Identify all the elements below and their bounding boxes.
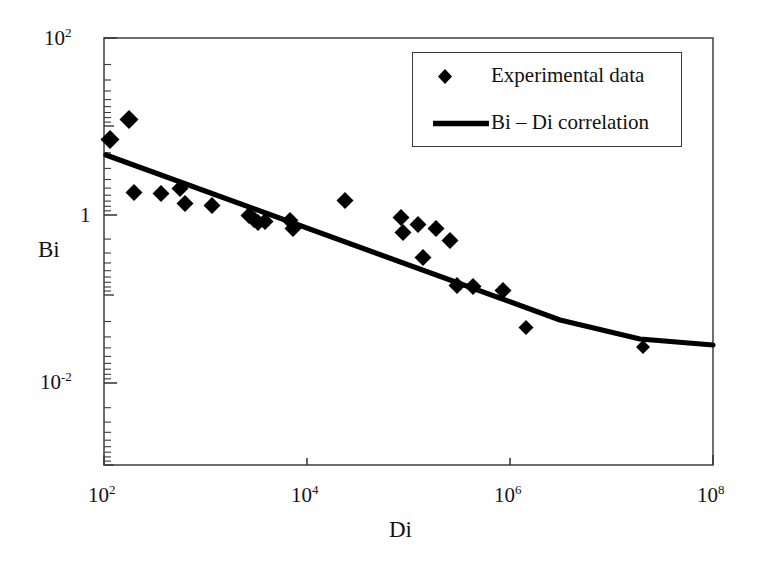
chart-legend: Experimental data Bi – Di correlation bbox=[412, 52, 682, 147]
diamond-marker-icon bbox=[431, 53, 491, 100]
x-tick-label-1e4: 104 bbox=[291, 485, 319, 506]
x-tick-label-1e6: 106 bbox=[494, 485, 522, 506]
legend-label-experimental-data: Experimental data bbox=[491, 65, 644, 86]
legend-label-correlation: Bi – Di correlation bbox=[491, 112, 649, 133]
y-tick-label-1e-2: 10-2 bbox=[40, 372, 72, 393]
x-tick-label-1e8: 108 bbox=[697, 485, 725, 506]
chart-figure: 102 1 10-2 Bi 102 104 106 108 Di Experim… bbox=[0, 0, 770, 561]
legend-entry-correlation: Bi – Di correlation bbox=[413, 100, 681, 147]
x-axis-title: Di bbox=[389, 518, 412, 541]
line-marker-icon bbox=[431, 100, 491, 147]
y-tick-label-1: 1 bbox=[80, 205, 91, 226]
legend-entry-experimental-data: Experimental data bbox=[413, 53, 681, 100]
x-tick-label-1e2: 102 bbox=[88, 485, 116, 506]
y-tick-label-1e2: 102 bbox=[44, 28, 72, 49]
y-axis-title: Bi bbox=[38, 238, 60, 261]
